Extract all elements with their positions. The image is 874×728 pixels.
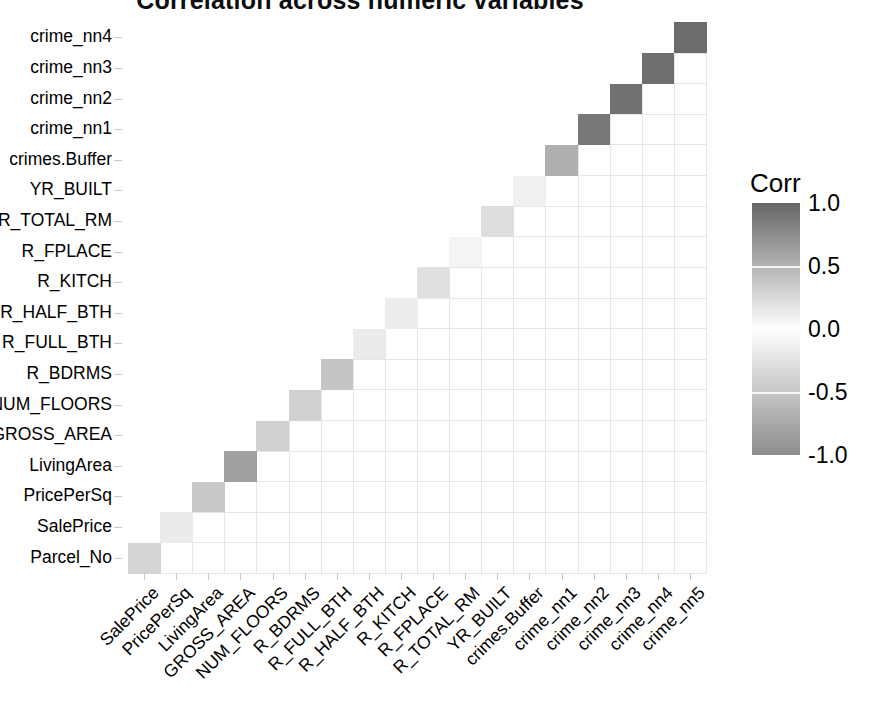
heatmap-cell — [160, 206, 193, 237]
heatmap-cell — [353, 83, 386, 114]
heatmap-cell — [449, 175, 482, 206]
heatmap-cell — [128, 542, 161, 573]
heatmap-cell — [353, 236, 386, 267]
heatmap-cell — [256, 175, 289, 206]
heatmap-cell — [224, 328, 257, 359]
heatmap-cell — [160, 298, 193, 329]
x-tick-mark — [305, 573, 306, 580]
heatmap-cell — [192, 420, 225, 451]
legend-colorbar — [752, 203, 800, 455]
x-tick-mark — [562, 573, 563, 580]
y-tick-label: R_TOTAL_RM — [0, 212, 112, 230]
heatmap-tiles — [128, 22, 706, 573]
y-tick-label: PricePerSq — [23, 488, 112, 506]
y-tick-mark — [114, 405, 122, 406]
y-tick-label: crimes.Buffer — [9, 151, 112, 169]
heatmap-cell — [192, 267, 225, 298]
heatmap-cell — [545, 144, 578, 175]
heatmap-cell — [674, 22, 707, 53]
heatmap-cell — [128, 481, 161, 512]
heatmap-cell — [192, 144, 225, 175]
heatmap-cell — [513, 144, 546, 175]
heatmap-cell — [385, 22, 418, 53]
heatmap-cell — [128, 83, 161, 114]
legend-tick-label: 1.0 — [808, 192, 840, 215]
heatmap-cell — [192, 236, 225, 267]
heatmap-cell — [192, 114, 225, 145]
y-tick-mark — [114, 221, 122, 222]
heatmap-cell — [321, 114, 354, 145]
heatmap-cell — [160, 328, 193, 359]
heatmap-cell — [321, 206, 354, 237]
y-tick-label: NUM_FLOORS — [0, 396, 112, 414]
heatmap-cell — [128, 53, 161, 84]
heatmap-cell — [449, 236, 482, 267]
x-tick-mark — [465, 573, 466, 580]
heatmap-cell — [513, 114, 546, 145]
x-tick-mark — [658, 573, 659, 580]
heatmap-cell — [224, 22, 257, 53]
heatmap-cell — [449, 22, 482, 53]
heatmap-cell — [610, 22, 643, 53]
heatmap-cell — [513, 175, 546, 206]
y-tick-label: Parcel_No — [30, 549, 112, 567]
heatmap-cell — [289, 175, 322, 206]
y-tick-mark — [114, 343, 122, 344]
y-tick-label: crime_nn1 — [30, 120, 112, 138]
heatmap-cell — [353, 114, 386, 145]
heatmap-cell — [321, 267, 354, 298]
heatmap-cell — [417, 206, 450, 237]
heatmap-cell — [321, 359, 354, 390]
y-tick-label: YR_BUILT — [30, 182, 112, 200]
y-tick-label: R_HALF_BTH — [0, 304, 112, 322]
heatmap-cell — [192, 389, 225, 420]
y-tick-mark — [114, 496, 122, 497]
y-tick-mark — [114, 282, 122, 283]
y-tick-label: R_FULL_BTH — [2, 335, 112, 353]
heatmap-cell — [224, 359, 257, 390]
heatmap-cell — [353, 206, 386, 237]
heatmap-cell — [417, 175, 450, 206]
heatmap-cell — [256, 359, 289, 390]
x-tick-mark — [497, 573, 498, 580]
y-tick-mark — [114, 37, 122, 38]
heatmap-cell — [256, 420, 289, 451]
heatmap-cell — [160, 175, 193, 206]
x-tick-mark — [626, 573, 627, 580]
page-title: Correlation across numeric variables — [0, 0, 720, 14]
heatmap-cell — [449, 83, 482, 114]
heatmap-cell — [321, 22, 354, 53]
y-tick-label: crime_nn3 — [30, 59, 112, 77]
y-tick-mark — [114, 435, 122, 436]
heatmap-cell — [128, 236, 161, 267]
heatmap-cell — [128, 22, 161, 53]
heatmap-cell — [321, 144, 354, 175]
heatmap-cell — [578, 22, 611, 53]
heatmap-cell — [224, 206, 257, 237]
x-tick-mark — [594, 573, 595, 580]
heatmap-cell — [224, 144, 257, 175]
y-tick-mark — [114, 374, 122, 375]
heatmap-cell — [610, 83, 643, 114]
legend-tick-line — [752, 392, 800, 394]
y-tick-label: R_BDRMS — [26, 365, 112, 383]
heatmap-cell — [353, 144, 386, 175]
y-tick-mark — [114, 558, 122, 559]
x-tick-mark — [273, 573, 274, 580]
y-axis: crime_nn4crime_nn3crime_nn2crime_nn1crim… — [0, 22, 122, 573]
heatmap-cell — [289, 267, 322, 298]
heatmap-cell — [224, 420, 257, 451]
heatmap-cell — [256, 236, 289, 267]
heatmap-cell — [160, 22, 193, 53]
gridline-vertical — [706, 22, 707, 573]
y-tick-mark — [114, 68, 122, 69]
heatmap-cell — [353, 328, 386, 359]
legend-tick-line — [752, 266, 800, 268]
heatmap-cell — [256, 298, 289, 329]
y-tick-mark — [114, 160, 122, 161]
heatmap-cell — [224, 298, 257, 329]
heatmap-cell — [545, 114, 578, 145]
heatmap-cell — [160, 114, 193, 145]
legend-tick-label: -0.5 — [808, 381, 848, 404]
heatmap-cell — [481, 22, 514, 53]
